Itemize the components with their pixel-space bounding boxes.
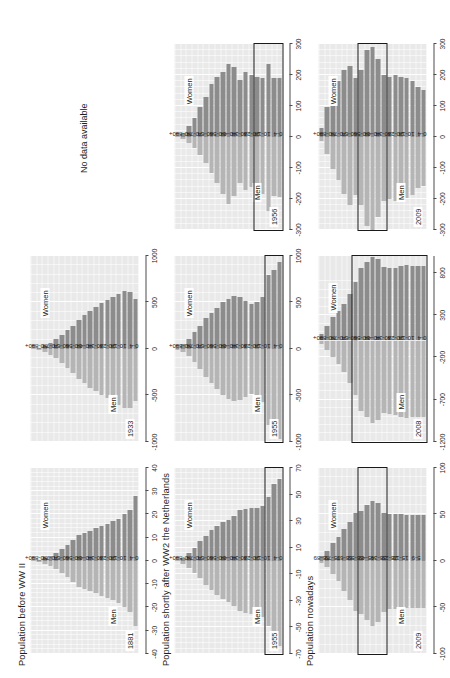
x-axis-tick	[145, 514, 148, 515]
bar-women-40-44	[375, 503, 380, 561]
bar-women-0-4	[133, 299, 138, 349]
bar-men-30-34	[99, 349, 104, 395]
men-label: Men	[252, 395, 261, 414]
bar-men-0-4	[421, 561, 426, 608]
bar-men-50-54	[364, 341, 369, 418]
x-axis-tick	[433, 314, 436, 315]
bar-men-25-29	[249, 561, 254, 614]
bar-women-5-9	[271, 270, 276, 349]
x-axis-tick	[289, 600, 292, 601]
bar-men-70-74	[53, 349, 58, 358]
x-axis-tick-label: -50	[438, 587, 445, 629]
bar-men-50-54	[220, 137, 225, 194]
bar-men-20-24	[110, 349, 115, 402]
bar-men-5-9	[415, 561, 420, 608]
plot-area: 0-410-1420-2430-3440-4450-5460-6470-7480…	[174, 468, 282, 654]
x-axis-tick	[145, 607, 148, 608]
bar-men-50-54	[76, 349, 81, 379]
bar-men-45-49	[82, 349, 87, 383]
bar-men-70-74	[197, 137, 202, 155]
bar-women-55-59	[358, 70, 363, 137]
x-axis-tick-label: -200	[438, 337, 445, 379]
x-axis-tick	[145, 395, 148, 396]
age-group-label-90+: 90+	[25, 344, 36, 351]
bar-men-75-79	[336, 561, 341, 582]
row-title-before-ww2: Population before WW II	[16, 563, 26, 666]
bar-men-10-14	[122, 349, 127, 409]
bar-men-5-9	[127, 561, 132, 612]
x-axis-tick-label: -1000	[150, 421, 157, 463]
bar-men-0-4	[421, 341, 426, 418]
men-label: Men	[396, 183, 405, 202]
bar-men-30-34	[243, 137, 248, 190]
year-label: 1955	[269, 631, 278, 651]
bar-women-15-19	[260, 297, 265, 349]
age-group-label-90+: 90+	[25, 556, 36, 563]
bar-women-10-14	[410, 81, 415, 137]
bar-women-0-4	[421, 90, 426, 137]
age-group-label-90+: 90+	[313, 132, 324, 139]
bar-women-15-19	[260, 78, 265, 137]
age-group-label-90+: 90+	[169, 344, 180, 351]
x-axis-tick-label: 300	[294, 23, 301, 65]
bar-women-60-64	[353, 282, 358, 340]
bar-men-35-39	[237, 561, 242, 612]
x-axis-tick	[289, 547, 292, 548]
pyramid-panel-de-nodata: No data available	[30, 44, 164, 230]
bar-men-55-59	[70, 561, 75, 582]
bar-men-50-54	[220, 349, 225, 395]
x-axis-line	[433, 256, 434, 442]
bar-men-25-29	[249, 349, 254, 394]
bar-women-25-29	[249, 508, 254, 561]
bar-men-40-44	[231, 561, 236, 606]
x-axis-tick	[433, 607, 436, 608]
bar-men-65-69	[203, 349, 208, 377]
bar-women-5-9	[127, 292, 132, 349]
x-axis-tick	[433, 399, 436, 400]
bar-women-0-4	[421, 266, 426, 340]
bar-men-25-29	[105, 561, 110, 598]
bar-men-20-24	[398, 561, 403, 609]
women-label: Women	[328, 500, 337, 530]
bar-women-10-14	[266, 64, 271, 137]
x-axis-tick	[145, 630, 148, 631]
x-axis-tick	[145, 537, 148, 538]
year-label: 1955	[269, 419, 278, 439]
bar-men-35-39	[381, 561, 386, 612]
bar-women-35-39	[381, 513, 386, 561]
bar-men-40-44	[231, 137, 236, 196]
bar-women-30-34	[387, 268, 392, 340]
plot-area: 5-915-1925-2935-3945-4955-5965-6975-7985…	[318, 468, 426, 654]
bar-men-10-14	[266, 561, 271, 626]
bar-men-75-79	[336, 341, 341, 365]
bar-men-65-69	[347, 137, 352, 205]
bar-women-30-34	[243, 72, 248, 137]
bar-men-50-54	[364, 137, 369, 226]
bar-men-30-34	[243, 561, 248, 613]
x-axis-tick	[289, 229, 292, 230]
bar-men-55-59	[358, 341, 363, 411]
x-axis-tick	[433, 198, 436, 199]
x-axis-tick-label: 0	[294, 328, 301, 370]
x-axis-tick	[289, 441, 292, 442]
x-axis-tick	[145, 560, 148, 561]
plot-area: 0-410-1420-2430-3440-4450-5460-6470-7480…	[174, 256, 282, 442]
bar-women-0-4	[277, 263, 282, 350]
age-group-label-85-89: 85-89	[313, 556, 329, 563]
x-axis-tick-label: 300	[438, 23, 445, 65]
x-axis-line	[433, 44, 434, 230]
bar-women-5-9	[415, 87, 420, 137]
x-axis-tick	[433, 105, 436, 106]
bar-women-40-44	[231, 67, 236, 137]
bar-men-40-44	[375, 137, 380, 217]
men-label: Men	[252, 607, 261, 626]
bar-men-80-84	[330, 137, 335, 170]
bar-men-65-69	[347, 561, 352, 600]
bar-men-60-64	[353, 561, 358, 611]
bar-men-20-24	[254, 561, 259, 614]
year-label: 1956	[269, 207, 278, 227]
x-axis-tick-label: 300	[438, 294, 445, 336]
bar-men-55-59	[358, 561, 363, 614]
no-data-message: No data available	[78, 103, 88, 173]
